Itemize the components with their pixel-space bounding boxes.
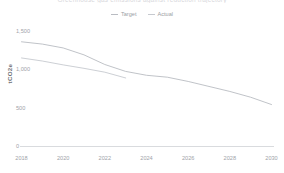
x-tick-label: 2022	[93, 155, 117, 162]
y-tick-label: 1,000	[16, 66, 42, 72]
plot-svg	[0, 0, 284, 173]
x-tick-label: 2020	[51, 155, 75, 162]
x-tick-label: 2026	[176, 155, 200, 162]
y-tick-label: 500	[16, 105, 42, 111]
x-tick-label: 2030	[260, 155, 284, 162]
plot-area	[0, 0, 284, 173]
y-axis-title: tCO2e	[6, 54, 13, 94]
x-tick-label: 2024	[135, 155, 159, 162]
x-tick-label: 2028	[218, 155, 242, 162]
series-line-target	[22, 42, 272, 105]
y-tick-label: 0	[16, 143, 42, 149]
emissions-line-chart: Greenhouse gas emissions against reducti…	[0, 0, 284, 173]
y-tick-label: 1,500	[16, 28, 42, 34]
y-axis-tick-labels: 05001,0001,500	[16, 0, 42, 173]
x-tick-label: 2018	[10, 155, 34, 162]
